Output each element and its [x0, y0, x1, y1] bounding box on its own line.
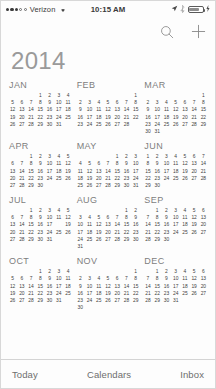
day-cell[interactable]: 1: [36, 92, 45, 99]
day-cell[interactable]: 31: [171, 297, 180, 304]
day-cell[interactable]: 4: [94, 99, 103, 106]
day-cell[interactable]: 22: [113, 175, 122, 182]
today-button[interactable]: Today: [12, 369, 38, 380]
day-cell[interactable]: 7: [26, 275, 35, 282]
day-cell[interactable]: 18: [180, 221, 189, 228]
day-cell[interactable]: 1: [131, 268, 140, 275]
day-cell[interactable]: 24: [85, 121, 94, 128]
day-cell[interactable]: 7: [26, 99, 35, 106]
day-cell[interactable]: 3: [45, 153, 54, 160]
day-cell[interactable]: 4: [63, 92, 72, 99]
day-cell[interactable]: 29: [131, 297, 140, 304]
day-cell[interactable]: 14: [113, 221, 122, 228]
day-cell[interactable]: 12: [8, 106, 17, 113]
day-cell[interactable]: 28: [122, 297, 131, 304]
day-cell[interactable]: 21: [17, 229, 26, 236]
day-cell[interactable]: 3: [85, 99, 94, 106]
day-cell[interactable]: 23: [76, 121, 85, 128]
day-cell[interactable]: 16: [45, 106, 54, 113]
day-cell[interactable]: 9: [162, 214, 171, 221]
day-cell[interactable]: 9: [36, 160, 45, 167]
day-cell[interactable]: 18: [85, 229, 94, 236]
day-cell[interactable]: 19: [171, 114, 180, 121]
day-cell[interactable]: 14: [199, 160, 208, 167]
day-cell[interactable]: 6: [103, 214, 112, 221]
day-cell[interactable]: 22: [36, 290, 45, 297]
day-cell[interactable]: 1: [122, 207, 131, 214]
day-cell[interactable]: 10: [76, 221, 85, 228]
day-cell[interactable]: 8: [36, 99, 45, 106]
day-cell[interactable]: 17: [45, 221, 54, 228]
day-cell[interactable]: 3: [54, 92, 63, 99]
day-cell[interactable]: 9: [76, 106, 85, 113]
day-cell[interactable]: 29: [153, 297, 162, 304]
plus-icon[interactable]: [191, 24, 206, 39]
day-cell[interactable]: 9: [122, 160, 131, 167]
day-cell[interactable]: 21: [113, 229, 122, 236]
day-cell[interactable]: 25: [180, 290, 189, 297]
day-cell[interactable]: 23: [45, 114, 54, 121]
day-cell[interactable]: 18: [54, 168, 63, 175]
day-cell[interactable]: 28: [143, 297, 152, 304]
day-cell[interactable]: 31: [54, 297, 63, 304]
day-cell[interactable]: 13: [17, 106, 26, 113]
day-cell[interactable]: 6: [8, 214, 17, 221]
day-cell[interactable]: 28: [103, 182, 112, 189]
day-cell[interactable]: 16: [45, 283, 54, 290]
day-cell[interactable]: 29: [199, 121, 208, 128]
day-cell[interactable]: 26: [63, 175, 72, 182]
day-cell[interactable]: 14: [17, 168, 26, 175]
day-cell[interactable]: 23: [143, 121, 152, 128]
day-cell[interactable]: 25: [180, 229, 189, 236]
day-cell[interactable]: 28: [17, 236, 26, 243]
month-block-oct[interactable]: OCT...1234567891011121314151617181920212…: [8, 256, 73, 311]
day-cell[interactable]: 19: [180, 168, 189, 175]
day-cell[interactable]: 2: [76, 99, 85, 106]
day-cell[interactable]: 29: [26, 182, 35, 189]
day-cell[interactable]: 3: [85, 275, 94, 282]
day-cell[interactable]: 20: [113, 114, 122, 121]
day-cell[interactable]: 15: [199, 106, 208, 113]
day-cell[interactable]: 4: [180, 207, 189, 214]
day-cell[interactable]: 25: [63, 290, 72, 297]
year-scroll-area[interactable]: 2014 JAN...12345678910111213141516171819…: [1, 45, 215, 359]
day-cell[interactable]: 29: [26, 236, 35, 243]
day-cell[interactable]: 30: [76, 304, 85, 311]
day-cell[interactable]: 14: [143, 221, 152, 228]
day-cell[interactable]: 29: [122, 236, 131, 243]
day-cell[interactable]: 5: [63, 153, 72, 160]
day-cell[interactable]: 5: [94, 214, 103, 221]
day-cell[interactable]: 4: [171, 153, 180, 160]
day-cell[interactable]: 12: [103, 106, 112, 113]
day-cell[interactable]: 1: [26, 153, 35, 160]
day-cell[interactable]: 15: [113, 168, 122, 175]
day-cell[interactable]: 21: [199, 168, 208, 175]
day-cell[interactable]: 1: [113, 153, 122, 160]
day-cell[interactable]: 24: [54, 290, 63, 297]
day-cell[interactable]: 15: [26, 168, 35, 175]
day-cell[interactable]: 2: [45, 268, 54, 275]
day-cell[interactable]: 12: [94, 221, 103, 228]
day-cell[interactable]: 3: [153, 99, 162, 106]
day-cell[interactable]: 25: [54, 229, 63, 236]
day-cell[interactable]: 12: [63, 214, 72, 221]
day-cell[interactable]: 25: [63, 114, 72, 121]
month-block-mar[interactable]: MAR......1234567891011121314151617181920…: [143, 80, 208, 135]
day-cell[interactable]: 20: [190, 168, 199, 175]
month-block-jan[interactable]: JAN...1234567891011121314151617181920212…: [8, 80, 73, 135]
day-cell[interactable]: 6: [8, 160, 17, 167]
day-cell[interactable]: 17: [45, 168, 54, 175]
day-cell[interactable]: 2: [162, 207, 171, 214]
day-cell[interactable]: 18: [63, 283, 72, 290]
day-cell[interactable]: 7: [143, 275, 152, 282]
day-cell[interactable]: 20: [8, 175, 17, 182]
day-cell[interactable]: 17: [153, 114, 162, 121]
day-cell[interactable]: 17: [54, 106, 63, 113]
day-cell[interactable]: 7: [199, 153, 208, 160]
day-cell[interactable]: 5: [63, 207, 72, 214]
day-cell[interactable]: 11: [63, 99, 72, 106]
day-cell[interactable]: 1: [143, 153, 152, 160]
day-cell[interactable]: 21: [26, 114, 35, 121]
day-cell[interactable]: 7: [143, 214, 152, 221]
day-cell[interactable]: 21: [190, 114, 199, 121]
